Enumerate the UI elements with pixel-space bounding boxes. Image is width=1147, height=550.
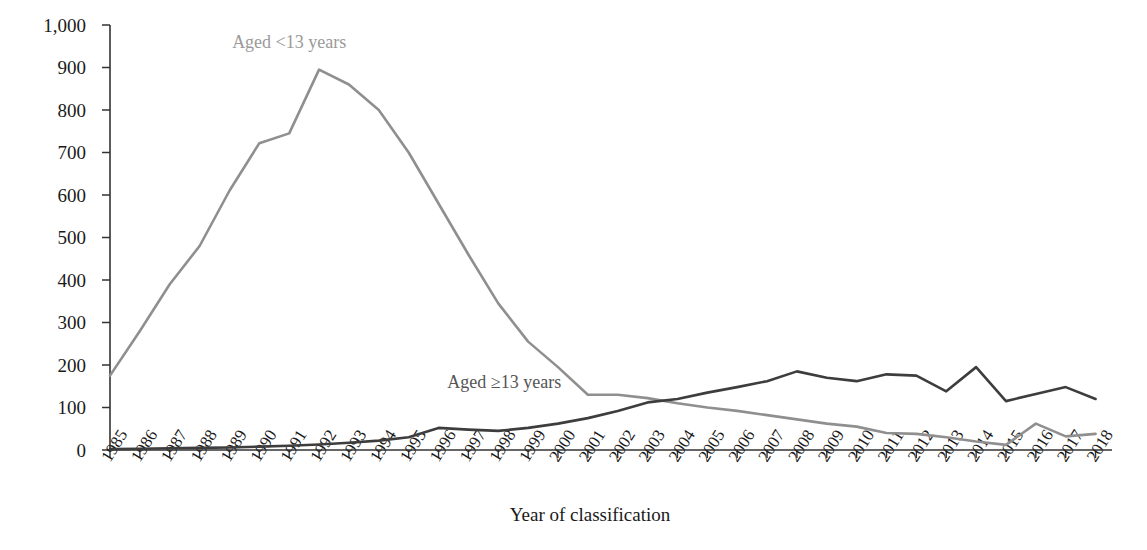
x-tick-label: 2017 xyxy=(1053,426,1087,465)
y-tick-label: 0 xyxy=(77,440,87,461)
x-tick-label: 2006 xyxy=(724,426,758,465)
x-tick-label: 2009 xyxy=(814,426,848,465)
x-tick-label: 2004 xyxy=(665,426,699,465)
x-tick-label: 1988 xyxy=(187,426,221,465)
x-tick-label: 1998 xyxy=(486,426,520,465)
y-tick-label: 600 xyxy=(58,185,87,206)
y-tick-label: 500 xyxy=(58,227,87,248)
x-tick-label: 1997 xyxy=(456,426,490,465)
x-tick-label: 1994 xyxy=(366,426,400,465)
y-tick-label: 700 xyxy=(58,142,87,163)
y-tick-label: 200 xyxy=(58,355,87,376)
series-lines xyxy=(110,70,1096,450)
x-tick-labels: 1985198619871988198919901991199219931994… xyxy=(97,426,1117,465)
x-tick-label: 1989 xyxy=(217,426,251,465)
series-label: Aged <13 years xyxy=(232,32,346,52)
y-tick-label: 1,000 xyxy=(43,15,86,36)
y-tick-labels: 01002003004005006007008009001,000 xyxy=(43,15,86,461)
x-tick-label: 2016 xyxy=(1023,426,1057,465)
x-tick-label: 2002 xyxy=(605,426,639,465)
chart-figure: Classifications, No. 0100200300400500600… xyxy=(0,0,1147,550)
y-tick-label: 400 xyxy=(58,270,87,291)
x-tick-label: 2007 xyxy=(754,426,788,465)
x-tick-label: 1993 xyxy=(336,426,370,465)
x-tick-label: 2010 xyxy=(844,426,878,465)
x-tick-label: 2003 xyxy=(635,426,669,465)
x-tick-label: 2000 xyxy=(545,426,579,465)
x-tick-label: 2012 xyxy=(904,426,938,465)
y-axis-title: Classifications, No. xyxy=(0,0,24,52)
x-tick-label: 2001 xyxy=(575,426,609,465)
x-tick-label: 2005 xyxy=(695,426,729,465)
x-axis-title: Year of classification xyxy=(510,504,671,525)
y-tick-label: 100 xyxy=(58,397,87,418)
x-tick-label: 2013 xyxy=(934,426,968,465)
x-tick-label: 1986 xyxy=(127,426,161,465)
y-tick-label: 800 xyxy=(58,100,87,121)
x-tick-label: 1987 xyxy=(157,426,191,465)
y-tick-label: 900 xyxy=(58,57,87,78)
x-tick-label: 2018 xyxy=(1083,426,1117,465)
series-annotations: Aged <13 yearsAged ≥13 years xyxy=(232,32,561,392)
x-tick-label: 1985 xyxy=(97,426,131,465)
series-label: Aged ≥13 years xyxy=(447,372,561,392)
x-tick-label: 1996 xyxy=(426,426,460,465)
x-tick-label: 2014 xyxy=(963,426,997,465)
y-tick-marks xyxy=(102,25,110,450)
x-tick-label: 2008 xyxy=(784,426,818,465)
x-tick-label: 1999 xyxy=(515,426,549,465)
y-tick-label: 300 xyxy=(58,312,87,333)
line-chart-svg: 01002003004005006007008009001,000 198519… xyxy=(0,0,1147,550)
